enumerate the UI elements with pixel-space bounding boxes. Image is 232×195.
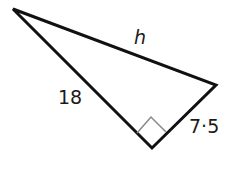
right-angle-marker (137, 117, 166, 133)
triangle-outline (13, 9, 216, 148)
leg-long-label: 18 (58, 88, 82, 107)
leg-short-label: 7·5 (189, 117, 219, 136)
triangle-diagram: h 18 7·5 (0, 0, 232, 195)
triangle-shape (0, 0, 232, 195)
hypotenuse-label: h (134, 28, 146, 47)
